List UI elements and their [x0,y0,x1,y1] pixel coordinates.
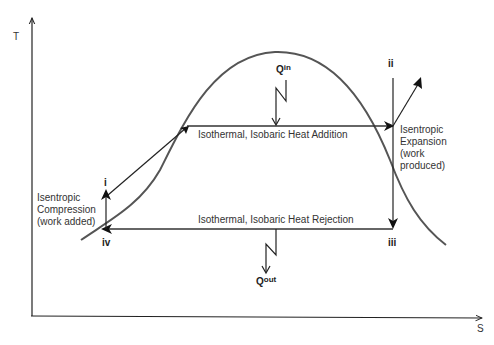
q-out-arrow [266,229,276,272]
heat-rejection-label: Isothermal, Isobaric Heat Rejection [198,214,354,226]
q-in-base: Q [276,64,284,75]
compression-label-line1: Isentropic [37,192,96,204]
q-out-base: Q [256,276,264,287]
q-out-sup: out [264,275,276,284]
q-in-label: Qin [276,64,291,75]
t-axis-label: T [13,31,19,43]
state-iii-label: iii [388,237,396,249]
arrowhead-ii [413,77,422,89]
q-in-arrow [276,80,286,124]
q-in-sup: in [284,63,291,72]
state-i-label: i [104,177,107,189]
expansion-label-line4: produced) [400,160,447,172]
s-axis-label: S [477,323,484,335]
ts-diagram-canvas [0,0,494,345]
state-iv-label: iv [102,237,110,249]
q-out-label: Qout [256,276,276,287]
expansion-label: Isentropic Expansion (work produced) [400,124,447,172]
compression-label: Isentropic Compression (work added) [37,192,96,228]
state-ii-label: ii [388,58,394,70]
process-i-to-top-line [108,128,186,195]
compression-label-line2: Compression [37,204,96,216]
compression-label-line3: (work added) [37,216,96,228]
expansion-label-line2: Expansion [400,136,447,148]
expansion-label-line1: Isentropic [400,124,447,136]
heat-addition-label: Isothermal, Isobaric Heat Addition [198,129,348,141]
expansion-label-line3: (work [400,148,447,160]
process-to-ii-line [393,81,420,126]
